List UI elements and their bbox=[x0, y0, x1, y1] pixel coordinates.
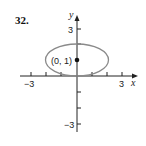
center-point bbox=[75, 58, 80, 63]
y-axis-arrow-icon bbox=[75, 15, 80, 21]
x-tick-label-3: 3 bbox=[119, 79, 124, 89]
ellipse-graph: y x 3 −3 −3 3 (0, 1) bbox=[0, 0, 146, 146]
x-tick-label-neg3: −3 bbox=[24, 79, 34, 89]
y-axis-label: y bbox=[68, 9, 74, 20]
y-tick-label-3: 3 bbox=[68, 25, 73, 35]
x-axis-label: x bbox=[130, 77, 136, 88]
center-point-label: (0, 1) bbox=[51, 56, 72, 66]
y-tick-label-neg3: −3 bbox=[64, 120, 74, 130]
